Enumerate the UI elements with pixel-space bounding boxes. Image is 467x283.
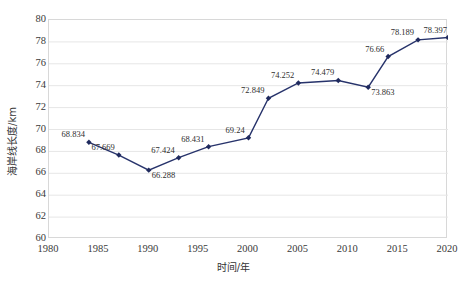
x-tick-label: 2000 (228, 243, 268, 254)
data-point-label: 74.252 (271, 71, 294, 80)
data-point-marker (246, 135, 251, 140)
data-point-label: 78.397 (424, 26, 447, 35)
data-point-label: 74.479 (311, 68, 334, 77)
data-point-marker (116, 152, 121, 157)
data-point-marker (176, 155, 181, 160)
x-tick-label: 2015 (377, 243, 417, 254)
x-axis-title: 时间/年 (0, 259, 467, 274)
data-point-label: 68.834 (62, 130, 85, 139)
data-point-label: 73.863 (371, 88, 394, 97)
data-point-label: 78.189 (391, 28, 414, 37)
data-point-marker (296, 80, 301, 85)
x-tick-label: 2010 (327, 243, 367, 254)
x-tick-label: 1995 (178, 243, 218, 254)
x-tick-label: 1980 (28, 243, 68, 254)
data-point-marker (266, 96, 271, 101)
data-point-label: 76.66 (365, 45, 384, 54)
x-tick-label: 2005 (277, 243, 317, 254)
x-tick-label: 1985 (78, 243, 118, 254)
data-point-label: 67.424 (151, 146, 174, 155)
plot-area: 68.83467.66966.28867.42468.43169.2472.84… (48, 19, 447, 238)
x-tick-label: 1990 (128, 243, 168, 254)
data-point-marker (336, 78, 341, 83)
coastline-length-line-chart: 海岸线长度/km 6062646668707274767880 19801985… (0, 0, 467, 283)
data-point-label: 69.24 (226, 126, 245, 135)
data-point-label: 68.431 (181, 135, 204, 144)
series-line (89, 38, 448, 171)
data-point-marker (445, 35, 448, 40)
x-tick-label: 2020 (427, 243, 467, 254)
data-point-marker (146, 167, 151, 172)
series-svg (49, 20, 448, 239)
data-point-label: 67.669 (91, 143, 114, 152)
data-point-marker (206, 144, 211, 149)
data-point-label: 72.849 (241, 86, 264, 95)
data-point-label: 66.288 (152, 171, 175, 180)
